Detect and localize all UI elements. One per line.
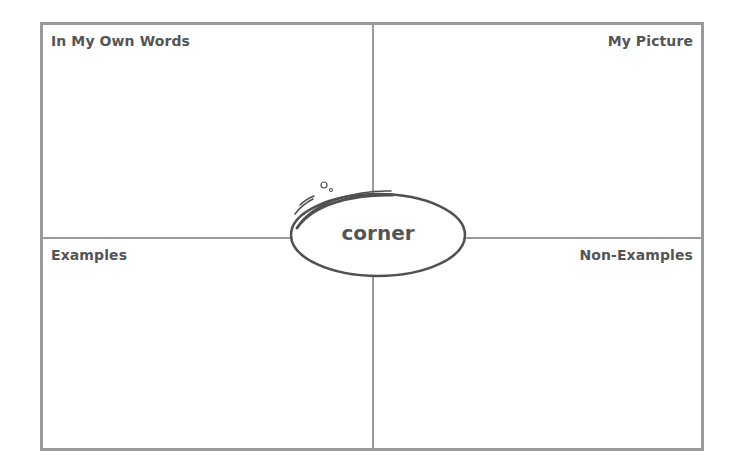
quadrant-label-my-picture: My Picture bbox=[608, 33, 693, 49]
quadrant-label-in-my-own-words: In My Own Words bbox=[51, 33, 190, 49]
quadrant-label-examples: Examples bbox=[51, 247, 127, 263]
center-term-bubble: corner bbox=[283, 176, 473, 284]
vocabulary-term: corner bbox=[283, 221, 473, 245]
quadrant-label-non-examples: Non-Examples bbox=[579, 247, 693, 263]
